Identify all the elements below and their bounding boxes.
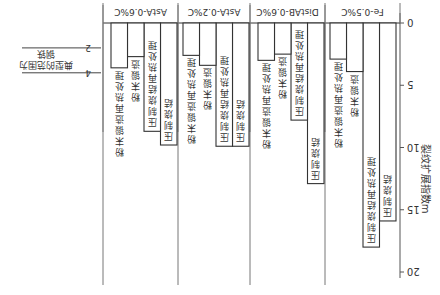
y-tick-label: 10 [407, 142, 420, 153]
bar-label-char: 末 [278, 78, 287, 89]
bar [128, 23, 145, 57]
bar-label-char: 锻 [203, 78, 212, 89]
bar-label-char: 锻 [115, 125, 124, 136]
bar-label-char: 锻 [131, 70, 140, 81]
bar-label-char: 烧 [295, 84, 304, 95]
bar [347, 23, 364, 72]
bar-label-char: 粉 [203, 100, 212, 111]
bar-label-char: 压 [367, 233, 376, 243]
bar-label-char: 热 [220, 77, 229, 88]
bar-label-char: 理 [148, 40, 157, 50]
bar-label-char: 再 [367, 189, 376, 199]
bar-label-char: 末 [203, 89, 212, 100]
bar-label-char: 理 [187, 57, 196, 67]
bar-label-char: 制 [236, 121, 245, 132]
bar-label-char: 粉 [278, 89, 287, 100]
bar-label-char: 锻 [278, 67, 287, 78]
bar-label-char: 压 [236, 132, 245, 142]
bar-label-char: 制 [311, 159, 320, 170]
bar-label-char: 处 [187, 68, 196, 79]
group-label: Fe-0.5%C [341, 7, 384, 17]
bar-label-char: 再 [295, 62, 304, 72]
bar-label-char: 理 [367, 156, 376, 166]
bar [275, 23, 292, 54]
bar-label-char: 造 [334, 105, 343, 116]
bar-label-char: 制 [295, 95, 304, 106]
bar-label-char: 再 [262, 95, 271, 105]
bar-label-char: 压 [311, 170, 320, 180]
group-label: AstA-0.2%C [188, 7, 241, 17]
bar-label-char: 造 [278, 56, 287, 67]
bar-label-char: 处 [367, 167, 376, 178]
bar-label-char: 压 [220, 132, 229, 142]
bar-label-char: 造 [115, 114, 124, 125]
bar-label-char: 热 [148, 62, 157, 73]
bar-label-char: 结 [383, 174, 392, 185]
bar-label-char: 末 [350, 96, 359, 107]
bar-label-char: 锻 [262, 117, 271, 128]
bar-label-char: 理 [115, 70, 124, 80]
bar-label-char: 烧 [220, 110, 229, 121]
bar-label-char: 再 [148, 73, 157, 83]
bar-label-char: 粉 [131, 92, 140, 103]
bar-layer: 压制烧结压制烧结再热处理粉末锻造粉末锻造再热处理压制烧结压制烧结再热处理粉末锻造… [111, 23, 396, 247]
bar-label-char: 末 [131, 81, 140, 92]
bar-label-char: 热 [187, 79, 196, 90]
bar-label-char: 末 [334, 127, 343, 138]
bar [111, 23, 128, 68]
bar-label-char: 处 [295, 40, 304, 51]
bar-label-char: 压 [164, 131, 173, 141]
bar-label-char: 粉 [115, 147, 124, 158]
bar-label-char: 烧 [311, 148, 320, 159]
bar-label-char: 热 [367, 178, 376, 189]
annotation-text-line2: 钢铁 [37, 49, 55, 60]
bar-label-char: 压 [295, 106, 304, 116]
bar-label-char: 结 [367, 200, 376, 211]
bar-label-char: 烧 [164, 109, 173, 120]
bar [330, 23, 347, 59]
bar-label-char: 锻 [350, 85, 359, 96]
group-label: AstA-0.6%C [114, 7, 167, 17]
bar-label-char: 末 [187, 123, 196, 134]
bar-label-char: 压 [148, 117, 157, 127]
bar-label-char: 制 [148, 106, 157, 117]
bar-label-char: 再 [187, 90, 196, 100]
y-tick-label: 5 [407, 79, 413, 90]
bar-label-char: 再 [115, 103, 124, 113]
bar-label-char: 粉 [350, 107, 359, 118]
bar-label-char: 热 [334, 83, 343, 94]
bar-label-char: 压 [383, 207, 392, 217]
bar-label-char: 热 [295, 51, 304, 62]
bar-label-char: 锻 [187, 112, 196, 123]
y-axis-title: 裂纹扩展指数m [420, 144, 432, 214]
bar-label-char: 粉 [187, 134, 196, 145]
bar-label-char: 粉 [262, 139, 271, 150]
bar-label-char: 造 [350, 74, 359, 85]
annotation-layer: 24典型的范围为钢铁 [19, 43, 101, 78]
bar-label-char: 结 [164, 98, 173, 109]
annotation-text-line1: 典型的范围为 [19, 60, 73, 71]
bar-label-char: 造 [187, 101, 196, 112]
chart-stage: 05101520裂纹扩展指数m Fe-0.5%CDistAB-0.6%CAstA… [0, 0, 440, 295]
bar-label-char: 热 [262, 84, 271, 95]
bar-label-char: 锻 [334, 116, 343, 127]
crack-growth-exponent-chart: 05101520裂纹扩展指数m Fe-0.5%CDistAB-0.6%CAstA… [0, 0, 440, 295]
y-tick-label: 15 [407, 204, 420, 215]
bar-label-char: 烧 [148, 95, 157, 106]
bar-label-char: 结 [220, 99, 229, 110]
bar-label-char: 末 [115, 136, 124, 147]
bar-label-char: 热 [115, 92, 124, 103]
bar-label-char: 结 [148, 84, 157, 95]
bar-label-char: 烧 [367, 211, 376, 222]
bar-label-char: 处 [220, 66, 229, 77]
bar-label-char: 再 [220, 88, 229, 98]
bar-label-char: 造 [203, 67, 212, 78]
bar-label-char: 末 [262, 128, 271, 139]
y-tick-label: 20 [407, 266, 420, 277]
bar-label-char: 再 [334, 94, 343, 104]
bar-label-char: 结 [236, 99, 245, 110]
bar-label-char: 制 [367, 222, 376, 233]
bar-label-char: 理 [295, 29, 304, 39]
bar [258, 23, 275, 60]
bar-label-char: 处 [148, 51, 157, 62]
